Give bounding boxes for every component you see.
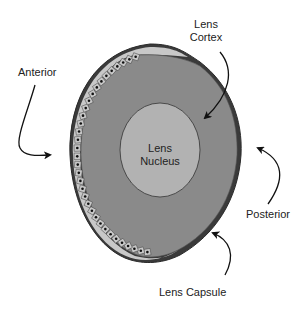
epithelial-cell-nucleus [100,80,103,83]
epithelial-cell-nucleus [115,237,118,240]
epithelial-cell-nucleus [96,86,99,89]
epithelial-cell-nucleus [91,93,94,96]
epithelial-cell-nucleus [84,107,87,110]
epithelial-cell-nucleus [146,251,149,254]
epithelial-cell-nucleus [134,55,137,58]
epithelial-cell-nucleus [109,233,112,236]
epithelial-cell-nucleus [88,100,91,103]
epithelial-cell-nucleus [104,228,107,231]
epithelial-cell-nucleus [116,65,119,68]
label-lens-cortex-line2: Cortex [186,31,226,44]
epithelial-cell-nucleus [110,70,113,73]
epithelial-cell-nucleus [77,138,80,141]
epithelial-cell-nucleus [76,155,79,158]
epithelial-cell-nucleus [140,249,143,252]
epithelial-cell-nucleus [76,163,79,166]
posterior-arrow [258,148,280,204]
epithelial-cell-nucleus [99,222,102,225]
epithelial-cell-nucleus [121,241,124,244]
epithelial-cell-nucleus [122,61,125,64]
epithelial-cell-nucleus [76,147,79,150]
epithelial-cell-nucleus [127,245,130,248]
epithelial-cell-nucleus [84,195,87,198]
epithelial-cell-nucleus [79,122,82,125]
epithelial-cell-nucleus [105,75,108,78]
epithelial-cell-nucleus [91,209,94,212]
epithelial-cell-nucleus [133,247,136,250]
epithelial-cell-nucleus [128,58,131,61]
epithelial-cell-nucleus [82,114,85,117]
label-lens-nucleus: Lens Nucleus [135,142,185,168]
anterior-arrow [19,85,50,155]
label-lens-nucleus-line2: Nucleus [135,155,185,168]
epithelial-cell-nucleus [79,180,82,183]
epithelial-cell-nucleus [78,172,81,175]
epithelial-cell-nucleus [78,130,81,133]
epithelial-cell-nucleus [81,187,84,190]
label-lens-cortex-line1: Lens [186,18,226,31]
label-lens-cortex: Lens Cortex [186,18,226,44]
label-anterior: Anterior [18,66,57,79]
epithelial-cell-nucleus [95,216,98,219]
label-lens-capsule: Lens Capsule [159,286,226,299]
epithelial-cell-nucleus [87,202,90,205]
label-lens-nucleus-line1: Lens [135,142,185,155]
capsule-arrow [213,233,231,275]
label-posterior: Posterior [246,208,290,221]
